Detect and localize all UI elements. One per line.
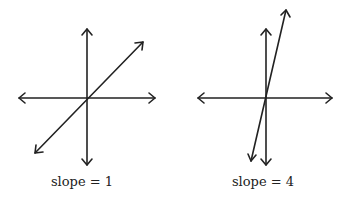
graph-slope-1 [19, 29, 155, 165]
diagram-canvas [0, 0, 348, 201]
graph-label-slope-1: slope = 1 [51, 174, 113, 189]
graph-slope-4 [198, 10, 332, 165]
graph-label-slope-4: slope = 4 [232, 174, 294, 189]
